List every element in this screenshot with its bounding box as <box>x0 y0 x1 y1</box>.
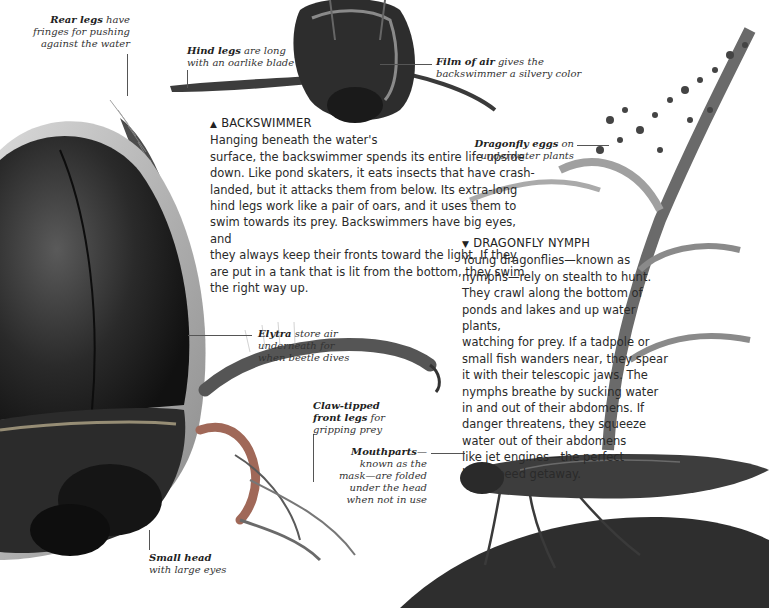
leader-elytra <box>188 335 252 336</box>
backswimmer-heading: ▲BACKSWIMMER <box>210 115 540 132</box>
dragonfly-nymph-section: ▼DRAGONFLY NYMPH Young dragonflies—known… <box>462 235 677 482</box>
leader-small-head <box>149 530 150 550</box>
label-rear-legs: Rear legs have fringes for pushing again… <box>30 14 130 50</box>
label-small-head: Small head with large eyes <box>149 552 249 576</box>
leader-claw-tipped <box>313 434 314 482</box>
leader-film-of-air <box>380 64 432 65</box>
label-elytra: Elytra store air underneath for when bee… <box>258 328 358 364</box>
down-triangle-icon: ▼ <box>462 239 469 249</box>
up-triangle-icon: ▲ <box>210 119 217 129</box>
label-film-of-air: Film of air gives the backswimmer a silv… <box>436 56 596 80</box>
label-mouthparts: Mouthparts— known as the mask—are folded… <box>335 446 427 506</box>
label-claw-tipped: Claw-tipped front legs for gripping prey <box>313 400 393 436</box>
leader-mouthparts <box>431 453 465 454</box>
leader-rear-legs <box>127 54 128 96</box>
label-hind-legs: Hind legs are long with an oarlike blade <box>187 45 307 69</box>
dragonfly-nymph-heading: ▼DRAGONFLY NYMPH <box>462 235 677 252</box>
leader-hind-legs <box>187 70 188 88</box>
dragonfly-nymph-body: Young dragonflies—known as nymphs—rely o… <box>462 252 677 482</box>
leader-dragonfly-eggs <box>577 145 609 146</box>
